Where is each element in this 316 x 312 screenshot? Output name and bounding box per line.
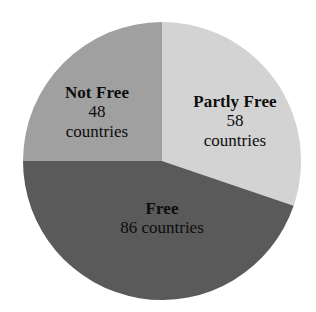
pie-label-not-free-category: Not Free (38, 83, 156, 102)
pie-label-not-free-value: 48 (38, 102, 156, 121)
pie-label-partly-free: Partly Free 58 countries (168, 92, 302, 150)
pie-label-free-value: 86 countries (76, 218, 248, 237)
pie-label-not-free: Not Free 48 countries (38, 83, 156, 141)
pie-label-partly-free-unit: countries (168, 131, 302, 150)
pie-label-partly-free-value: 58 (168, 111, 302, 130)
pie-label-free: Free 86 countries (76, 199, 248, 238)
pie-chart-figure: Not Free 48 countries Partly Free 58 cou… (0, 0, 316, 312)
pie-label-partly-free-category: Partly Free (168, 92, 302, 111)
pie-chart-graphic (0, 0, 316, 312)
pie-label-not-free-unit: countries (38, 122, 156, 141)
pie-label-free-category: Free (76, 199, 248, 218)
